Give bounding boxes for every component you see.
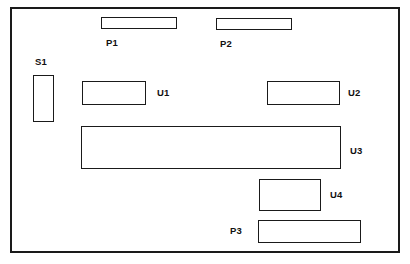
component-p2 bbox=[216, 18, 292, 30]
pcb-layout-diagram: P1 P2 S1 U1 U2 U3 U4 P3 bbox=[0, 0, 410, 264]
component-s1 bbox=[33, 75, 54, 122]
label-u4: U4 bbox=[330, 190, 342, 200]
component-u1 bbox=[82, 81, 146, 105]
component-p3 bbox=[258, 220, 361, 243]
component-u2 bbox=[267, 81, 340, 105]
label-u3: U3 bbox=[350, 146, 362, 156]
label-u1: U1 bbox=[157, 88, 169, 98]
component-u3 bbox=[81, 126, 341, 169]
label-u2: U2 bbox=[348, 88, 360, 98]
component-p1 bbox=[101, 17, 177, 29]
label-p2: P2 bbox=[220, 39, 232, 49]
label-s1: S1 bbox=[35, 57, 47, 67]
label-p3: P3 bbox=[230, 226, 242, 236]
component-u4 bbox=[259, 179, 321, 211]
label-p1: P1 bbox=[106, 38, 118, 48]
